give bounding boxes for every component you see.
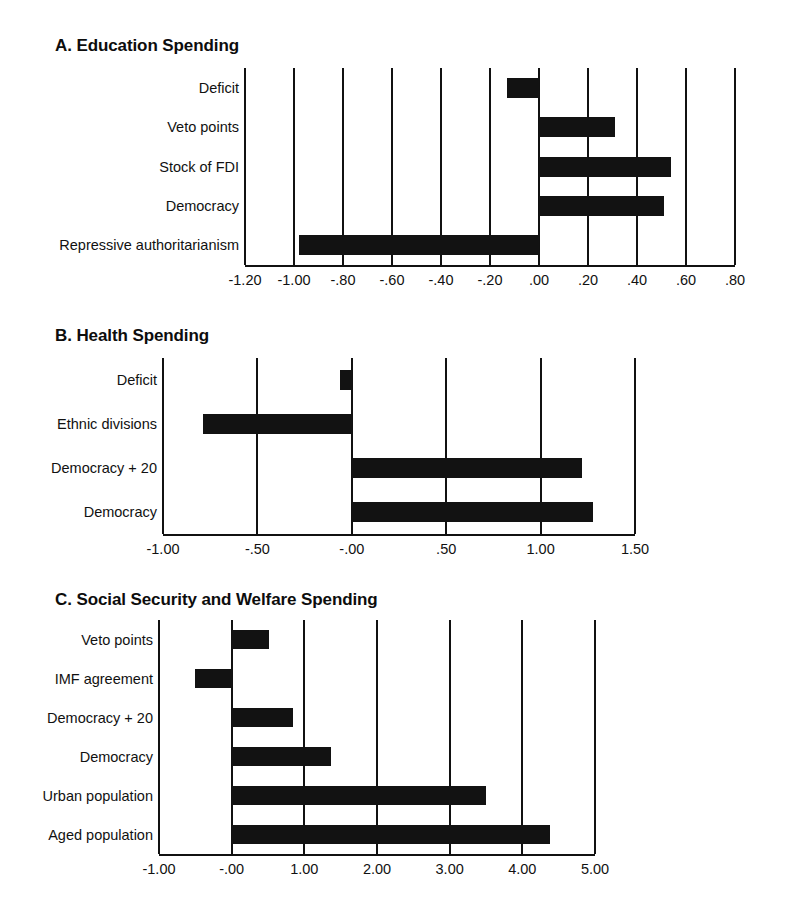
bar xyxy=(352,502,594,522)
gridline xyxy=(162,358,164,534)
category-label: Democracy xyxy=(84,504,157,520)
gridline xyxy=(256,358,258,534)
x-tick-label: -.50 xyxy=(245,541,270,557)
bar xyxy=(539,157,671,177)
panel-c-plot-area xyxy=(159,620,595,854)
panel-a-title: A. Education Spending xyxy=(55,36,239,56)
x-tick-label: 1.50 xyxy=(621,541,649,557)
category-label: Democracy + 20 xyxy=(51,460,157,476)
gridline xyxy=(521,620,523,854)
panel-b-health-spending: B. Health Spending -1.00-.50-.00.501.001… xyxy=(0,310,785,580)
x-tick-label: .60 xyxy=(676,272,696,288)
gridline xyxy=(685,68,687,265)
panel-c-social-security-welfare-spending: C. Social Security and Welfare Spending … xyxy=(0,580,785,910)
panel-c-x-axis-ticklabels: -1.00-.001.002.003.004.005.00 xyxy=(0,861,785,883)
x-tick-label: .00 xyxy=(529,272,549,288)
bar xyxy=(299,235,539,255)
category-label: IMF agreement xyxy=(55,671,153,687)
x-tick-label: -.00 xyxy=(339,541,364,557)
gridline xyxy=(634,358,636,534)
panel-c-title: C. Social Security and Welfare Spending xyxy=(55,590,378,610)
bar xyxy=(232,630,270,649)
category-label: Democracy xyxy=(80,749,153,765)
gridline xyxy=(303,620,305,854)
x-tick-label: 5.00 xyxy=(581,861,609,877)
gridline xyxy=(376,620,378,854)
bar xyxy=(195,669,231,688)
category-label: Deficit xyxy=(199,80,239,96)
gridline xyxy=(231,620,233,854)
bar xyxy=(539,117,615,137)
bar xyxy=(352,458,582,478)
category-label: Democracy + 20 xyxy=(47,710,153,726)
x-tick-label: -.60 xyxy=(380,272,405,288)
panel-a-x-axis-ticklabels: -1.20-1.00-.80-.60-.40-.20.00.20.40.60.8… xyxy=(0,272,785,294)
bar xyxy=(232,747,332,766)
x-tick-label: -1.00 xyxy=(277,272,310,288)
category-label: Democracy xyxy=(166,198,239,214)
x-tick-label: -.20 xyxy=(478,272,503,288)
category-label: Veto points xyxy=(81,632,153,648)
gridline xyxy=(594,620,596,854)
x-tick-label: 1.00 xyxy=(290,861,318,877)
category-label: Repressive authoritarianism xyxy=(59,237,239,253)
gridline xyxy=(293,68,295,265)
panel-b-axis-baseline xyxy=(163,534,635,536)
figure-three-panel-bar-chart: A. Education Spending -1.20-1.00-.80-.60… xyxy=(0,0,785,910)
panel-a-education-spending: A. Education Spending -1.20-1.00-.80-.60… xyxy=(0,0,785,310)
bar xyxy=(203,414,352,434)
x-tick-label: -1.00 xyxy=(146,541,179,557)
bar xyxy=(232,708,293,727)
x-tick-label: .40 xyxy=(627,272,647,288)
category-label: Ethnic divisions xyxy=(57,416,157,432)
category-label: Aged population xyxy=(48,827,153,843)
panel-a-axis-baseline xyxy=(245,265,735,267)
gridline xyxy=(244,68,246,265)
x-tick-label: -1.20 xyxy=(228,272,261,288)
panel-b-title: B. Health Spending xyxy=(55,326,209,346)
panel-c-axis-baseline xyxy=(159,854,595,856)
category-label: Stock of FDI xyxy=(159,159,239,175)
x-tick-label: .20 xyxy=(578,272,598,288)
category-label: Veto points xyxy=(167,119,239,135)
bar xyxy=(232,825,550,844)
gridline xyxy=(734,68,736,265)
x-tick-label: -.40 xyxy=(429,272,454,288)
x-tick-label: .50 xyxy=(436,541,456,557)
panel-b-x-axis-ticklabels: -1.00-.50-.00.501.001.50 xyxy=(0,541,785,563)
x-tick-label: 3.00 xyxy=(436,861,464,877)
bar xyxy=(340,370,351,390)
category-label: Deficit xyxy=(117,372,157,388)
x-tick-label: -.80 xyxy=(331,272,356,288)
category-label: Urban population xyxy=(43,788,153,804)
bar xyxy=(539,196,664,216)
bar xyxy=(507,78,539,98)
gridline xyxy=(449,620,451,854)
x-tick-label: 2.00 xyxy=(363,861,391,877)
x-tick-label: .80 xyxy=(725,272,745,288)
x-tick-label: 4.00 xyxy=(508,861,536,877)
x-tick-label: -1.00 xyxy=(142,861,175,877)
x-tick-label: 1.00 xyxy=(526,541,554,557)
bar xyxy=(232,786,486,805)
x-tick-label: -.00 xyxy=(219,861,244,877)
gridline xyxy=(158,620,160,854)
